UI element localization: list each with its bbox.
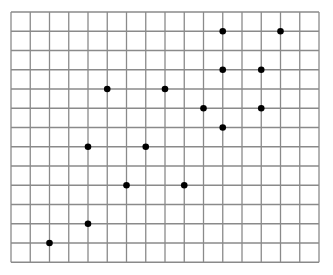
grid-point: [219, 28, 226, 35]
grid-point: [200, 105, 207, 112]
grid-point: [258, 66, 265, 73]
grid-point: [123, 182, 130, 189]
grid-point: [85, 143, 92, 150]
grid-point: [277, 28, 284, 35]
grid-point: [162, 86, 169, 93]
grid-lines: [11, 12, 319, 262]
grid-point: [258, 105, 265, 112]
grid-point: [142, 143, 149, 150]
grid-point: [104, 86, 111, 93]
grid-point: [85, 220, 92, 227]
grid-point: [46, 240, 53, 247]
dot-grid-diagram: [0, 0, 333, 275]
grid-point: [181, 182, 188, 189]
grid-point: [219, 66, 226, 73]
grid-point: [219, 124, 226, 131]
